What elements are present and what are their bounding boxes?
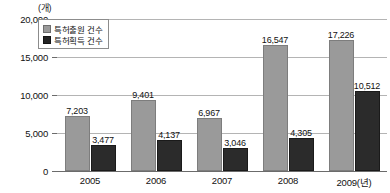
bar: 6,967 [197, 118, 222, 171]
y-axis-tick-mark [52, 171, 57, 172]
bar-value-label: 9,401 [132, 90, 154, 100]
chart-legend: 특허출원 건수 특허획득 건수 [38, 19, 109, 49]
bar: 3,046 [223, 148, 248, 171]
bar: 16,547 [263, 45, 288, 171]
legend-label-patent-acquisitions: 특허획득 건수 [54, 34, 102, 46]
bar-value-label: 4,305 [290, 128, 312, 138]
x-axis-tick-label: 2008 [278, 175, 298, 186]
y-axis-tick-label: 5,000 [25, 128, 48, 139]
bar: 10,512 [355, 91, 380, 171]
legend-item-patent-acquisitions: 특허획득 건수 [43, 34, 102, 45]
bar-value-label: 16,547 [262, 35, 288, 45]
y-axis-tick-mark [52, 57, 57, 58]
bar-value-label: 17,226 [328, 30, 354, 40]
bar-value-label: 6,967 [198, 108, 220, 118]
bar-value-label: 4,137 [158, 130, 180, 140]
bar: 4,305 [289, 138, 314, 171]
y-axis-tick-mark [52, 95, 57, 96]
bar: 9,401 [131, 100, 156, 171]
bar-value-label: 7,203 [66, 106, 88, 116]
y-axis-unit-label: (개) [38, 1, 51, 14]
bar-value-label: 3,477 [92, 135, 114, 145]
x-axis-tick-label: 2006 [146, 175, 166, 186]
bar-value-label: 10,512 [354, 81, 380, 91]
y-axis-tick-label: 15,000 [20, 52, 48, 63]
light-gray-swatch-icon [43, 25, 51, 33]
x-axis-tick-label: 2007 [212, 175, 232, 186]
x-axis-tick-label: 2005 [80, 175, 100, 186]
y-axis-tick-label: 0 [43, 166, 48, 177]
black-swatch-icon [43, 36, 51, 44]
y-axis-tick-mark [52, 133, 57, 134]
y-axis-tick-label: 10,000 [20, 90, 48, 101]
gridline-0 [57, 171, 387, 172]
bar: 3,477 [91, 145, 116, 171]
x-axis-tick-label: 2009(년) [336, 175, 371, 189]
patent-bar-chart: (개) 05,00010,00015,00020,0007,2033,4779,… [0, 0, 390, 193]
bar-value-label: 3,046 [224, 138, 246, 148]
bar: 4,137 [157, 140, 182, 171]
bar: 17,226 [329, 40, 354, 171]
legend-item-patent-applications: 특허출원 건수 [43, 23, 102, 34]
bar: 7,203 [65, 116, 90, 171]
